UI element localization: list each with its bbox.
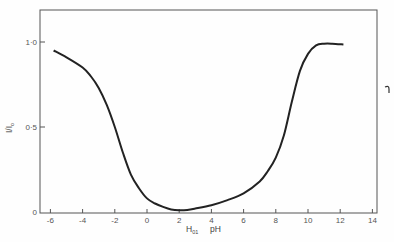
chart-canvas: -6-4-202468101214 00·51·0 H01 pH I/Io (0, 0, 394, 242)
x-tick-label: -4 (79, 216, 87, 225)
x-tick-label: -6 (47, 216, 55, 225)
data-line (54, 44, 344, 211)
y-tick-label: 0·5 (25, 123, 37, 132)
x-tick-label: -2 (111, 216, 119, 225)
x-axis-ticks: -6-4-202468101214 (47, 209, 378, 225)
x-axis-label-ph: pH (210, 224, 221, 234)
x-tick-label: 2 (177, 216, 182, 225)
margin-mark-icon (385, 86, 389, 93)
y-tick-label: 0 (33, 208, 38, 217)
x-axis-label-h: H01 (186, 224, 198, 235)
y-axis-ticks: 00·51·0 (25, 38, 45, 217)
x-tick-label: 6 (241, 216, 246, 225)
x-tick-label: 10 (304, 216, 313, 225)
y-axis-label: I/Io (4, 123, 15, 133)
svg-text:I/Io: I/Io (4, 123, 15, 133)
plot-frame (40, 10, 377, 213)
x-tick-label: 14 (368, 216, 377, 225)
y-tick-label: 1·0 (25, 38, 37, 47)
x-tick-label: 12 (336, 216, 345, 225)
x-tick-label: 8 (274, 216, 279, 225)
x-tick-label: 0 (145, 216, 150, 225)
